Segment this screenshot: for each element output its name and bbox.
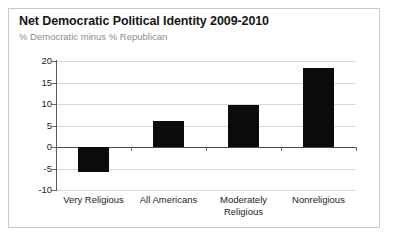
x-tick-label: Very Religious (56, 194, 131, 206)
x-tick-mark (206, 147, 207, 151)
y-tick-label: 5 (22, 121, 52, 131)
x-tick-label: All Americans (131, 194, 206, 206)
y-tick-mark (52, 83, 56, 84)
chart-figure: Net Democratic Political Identity 2009-2… (0, 0, 402, 246)
y-tick-mark (52, 126, 56, 127)
y-tick-mark (52, 190, 56, 191)
x-tick-mark (131, 147, 132, 151)
y-tick-label: -10 (22, 185, 52, 195)
y-tick-mark (52, 61, 56, 62)
y-tick-mark (52, 147, 56, 148)
bar (228, 105, 259, 147)
y-tick-mark (52, 104, 56, 105)
x-tick-label-line: Very Religious (56, 194, 131, 206)
bar (303, 68, 334, 147)
y-tick-label: 15 (22, 78, 52, 88)
y-axis-tick-labels: 20151050-5-10 (18, 61, 52, 190)
x-tick-label: ModeratelyReligious (206, 194, 281, 218)
x-tick-mark (356, 147, 357, 151)
x-tick-label-line: All Americans (131, 194, 206, 206)
gridline (56, 190, 356, 191)
x-tick-label-line: Moderately (206, 194, 281, 206)
x-axis-tick-labels: Very ReligiousAll AmericansModeratelyRel… (56, 194, 356, 228)
bar (153, 121, 184, 147)
y-tick-label: 20 (22, 56, 52, 66)
x-tick-label-line: Nonreligious (281, 194, 356, 206)
bar (78, 147, 109, 172)
y-tick-label: -5 (22, 164, 52, 174)
x-tick-label-line: Religious (206, 206, 281, 218)
gridline (56, 61, 356, 62)
y-axis-line (56, 60, 57, 191)
y-tick-mark (52, 169, 56, 170)
x-tick-label: Nonreligious (281, 194, 356, 206)
x-tick-mark (281, 147, 282, 151)
y-tick-label: 10 (22, 99, 52, 109)
y-tick-label: 0 (22, 142, 52, 152)
